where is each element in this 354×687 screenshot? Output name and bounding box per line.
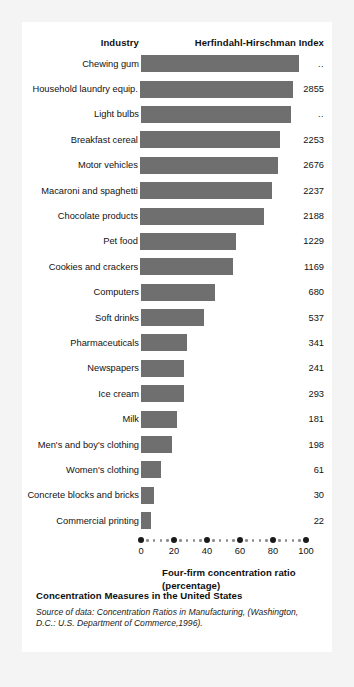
row-category-label: Breakfast cereal <box>22 135 140 145</box>
row-hhi-value: 2855 <box>303 84 332 94</box>
row-hhi-value: 2676 <box>303 160 332 170</box>
row-category-label: Macaroni and spaghetti <box>22 186 140 196</box>
axis-tick-label: 100 <box>298 546 314 556</box>
chart-row: Women's clothing61 <box>22 457 332 482</box>
axis-tick-minor <box>259 539 262 542</box>
chart-row: Newspapers241 <box>22 356 332 381</box>
chart-row: Motor vehicles2676 <box>22 153 332 178</box>
axis-tick-minor <box>226 539 229 542</box>
row-hhi-value: .. <box>306 59 332 69</box>
row-hhi-value: 181 <box>306 414 332 424</box>
row-category-label: Men's and boy's clothing <box>22 440 141 450</box>
bar-cell <box>141 508 306 533</box>
bar <box>141 360 184 377</box>
chart-row: Commercial printing22 <box>22 508 332 533</box>
row-category-label: Chewing gum <box>22 59 141 69</box>
chart-row: Household laundry equip.2855 <box>22 76 332 101</box>
row-hhi-value: 537 <box>306 313 332 323</box>
bar-cell <box>141 483 306 508</box>
chart-row: Chocolate products2188 <box>22 203 332 228</box>
row-category-label: Pharmaceuticals <box>22 338 141 348</box>
chart-row: Pharmaceuticals341 <box>22 330 332 355</box>
bar <box>141 309 204 326</box>
axis-tick-minor <box>146 539 149 542</box>
bar-cell <box>140 153 303 178</box>
axis-tick-minor <box>219 539 222 542</box>
row-category-label: Ice cream <box>22 389 141 399</box>
axis-tick-minor <box>186 539 189 542</box>
chart-row: Milk181 <box>22 406 332 431</box>
x-axis: 020406080100 <box>141 533 306 563</box>
row-hhi-value: 241 <box>306 363 332 373</box>
row-category-label: Commercial printing <box>22 516 141 526</box>
axis-tick-minor <box>232 539 235 542</box>
figure-title: Concentration Measures in the United Sta… <box>36 590 320 601</box>
axis-tick-minor <box>245 539 248 542</box>
figure-source-note: Source of data: Concentration Ratios in … <box>36 607 320 630</box>
bar <box>141 461 161 478</box>
bar-cell <box>141 305 306 330</box>
chart-row: Computers680 <box>22 280 332 305</box>
page-background: Industry Herfindahl-Hirschman Index Chew… <box>0 0 354 687</box>
x-axis-ticks <box>141 537 306 545</box>
row-category-label: Household laundry equip. <box>22 84 140 94</box>
bar <box>141 436 172 453</box>
bar <box>141 55 299 72</box>
x-axis-title-line1: Four-firm concentration ratio <box>162 567 332 580</box>
row-category-label: Light bulbs <box>22 109 141 119</box>
row-category-label: Milk <box>22 414 141 424</box>
figure-card: Industry Herfindahl-Hirschman Index Chew… <box>22 22 332 652</box>
bar <box>140 81 293 98</box>
bar <box>140 208 264 225</box>
axis-tick-minor <box>193 539 196 542</box>
axis-tick-label: 80 <box>268 546 278 556</box>
row-hhi-value: 2253 <box>303 135 332 145</box>
bar <box>140 157 279 174</box>
column-header-row: Industry Herfindahl-Hirschman Index <box>22 22 332 48</box>
figure-footer: Concentration Measures in the United Sta… <box>36 590 320 630</box>
bar-cell <box>140 127 303 152</box>
axis-tick-label: 60 <box>235 546 245 556</box>
bar <box>140 233 236 250</box>
axis-tick-major <box>237 537 243 543</box>
row-hhi-value: 2237 <box>303 186 332 196</box>
bar-cell <box>141 280 306 305</box>
row-category-label: Chocolate products <box>22 211 140 221</box>
axis-tick-label: 40 <box>202 546 212 556</box>
column-header-industry: Industry <box>22 37 141 48</box>
bar <box>141 487 154 504</box>
chart-row: Ice cream293 <box>22 381 332 406</box>
bar <box>141 106 291 123</box>
axis-tick-minor <box>292 539 295 542</box>
bar-cell <box>141 356 306 381</box>
chart-row: Chewing gum.. <box>22 51 332 76</box>
row-hhi-value: 30 <box>306 490 332 500</box>
axis-tick-minor <box>160 539 163 542</box>
row-category-label: Concrete blocks and bricks <box>22 490 141 500</box>
row-hhi-value: 1229 <box>303 236 332 246</box>
row-hhi-value: 2188 <box>303 211 332 221</box>
chart-row: Light bulbs.. <box>22 102 332 127</box>
bar-cell <box>140 203 303 228</box>
bar-cell <box>140 229 303 254</box>
axis-tick-major <box>270 537 276 543</box>
bar <box>140 182 272 199</box>
bar-cell <box>141 457 306 482</box>
axis-tick-major <box>138 537 144 543</box>
chart-row: Soft drinks537 <box>22 305 332 330</box>
chart-row: Breakfast cereal2253 <box>22 127 332 152</box>
bar <box>140 258 232 275</box>
axis-tick-minor <box>166 539 169 542</box>
bar <box>141 411 177 428</box>
bar-cell <box>141 432 306 457</box>
axis-tick-label: 0 <box>138 546 143 556</box>
axis-tick-minor <box>212 539 215 542</box>
axis-tick-major <box>204 537 210 543</box>
bar <box>141 512 151 529</box>
axis-tick-label: 20 <box>169 546 179 556</box>
bar-cell <box>141 406 306 431</box>
bar-cell <box>141 51 306 76</box>
row-hhi-value: 341 <box>306 338 332 348</box>
bar <box>141 385 184 402</box>
row-hhi-value: 22 <box>306 516 332 526</box>
